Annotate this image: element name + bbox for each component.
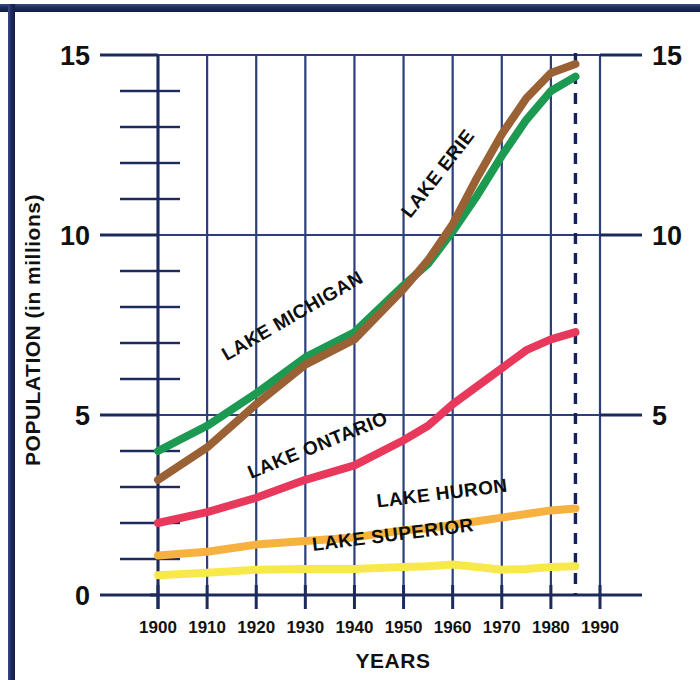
x-tick-label: 1960 — [434, 618, 472, 637]
series-lines — [158, 64, 575, 575]
x-axis-title: YEARS — [356, 649, 431, 672]
y-tick-label-left: 5 — [75, 401, 90, 431]
series-line-lake-michigan — [158, 77, 575, 451]
y-tick-label-right: 10 — [652, 221, 682, 251]
x-tick-label: 1900 — [139, 618, 177, 637]
series-label-lake-michigan: LAKE MICHIGAN — [218, 267, 367, 365]
x-tick-label: 1970 — [483, 618, 521, 637]
chart-plot-area: 05101551015 1900191019201930194019501960… — [0, 0, 700, 680]
y-tick-label-left: 15 — [60, 41, 90, 71]
x-tick-label: 1920 — [237, 618, 275, 637]
series-label-lake-ontario: LAKE ONTARIO — [245, 407, 391, 482]
y-tick-label-right: 5 — [652, 401, 667, 431]
x-tick-label: 1950 — [385, 618, 423, 637]
series-label-lake-superior: LAKE SUPERIOR — [311, 514, 475, 555]
x-tick-label: 1980 — [532, 618, 570, 637]
x-tick-label: 1910 — [188, 618, 226, 637]
great-lakes-population-line-chart: 05101551015 1900191019201930194019501960… — [0, 0, 700, 680]
y-tick-label-left: 0 — [75, 581, 90, 611]
series-line-lake-superior — [158, 564, 575, 575]
chart-page: 05101551015 1900191019201930194019501960… — [0, 0, 700, 680]
y-axis-title: POPULATION (in millions) — [21, 194, 44, 466]
x-tick-label: 1990 — [581, 618, 619, 637]
x-tick-label: 1940 — [336, 618, 374, 637]
y-tick-label-right: 15 — [652, 41, 682, 71]
series-label-lake-huron: LAKE HURON — [375, 475, 508, 512]
x-tick-label: 1930 — [286, 618, 324, 637]
series-inline-labels: LAKE ERIELAKE MICHIGANLAKE ONTARIOLAKE H… — [218, 125, 509, 555]
x-axis-tick-labels: 1900191019201930194019501960197019801990 — [139, 618, 619, 637]
y-tick-label-left: 10 — [60, 221, 90, 251]
